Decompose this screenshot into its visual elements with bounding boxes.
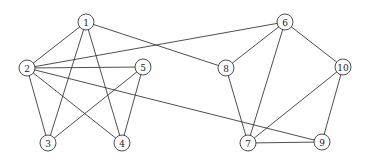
edge-2-5 <box>27 67 143 68</box>
node-5: 5 <box>135 59 151 75</box>
edge-2-6 <box>27 22 285 68</box>
node-9: 9 <box>314 134 330 150</box>
node-label: 3 <box>45 139 51 149</box>
node-label: 9 <box>319 138 325 148</box>
node-3: 3 <box>40 135 56 151</box>
edge-2-9 <box>27 68 322 142</box>
edge-2-3 <box>27 68 48 143</box>
node-label: 6 <box>282 18 288 28</box>
edge-4-5 <box>122 67 143 143</box>
edge-8-7 <box>226 68 248 143</box>
node-1: 1 <box>78 14 94 30</box>
node-label: 10 <box>337 63 349 73</box>
edge-6-8 <box>226 22 285 68</box>
node-8: 8 <box>218 60 234 76</box>
node-label: 8 <box>223 64 229 74</box>
edge-10-9 <box>322 67 343 142</box>
edge-1-2 <box>27 22 86 68</box>
edge-7-9 <box>248 142 322 143</box>
edge-6-7 <box>248 22 285 143</box>
node-label: 4 <box>119 139 125 149</box>
node-label: 1 <box>83 18 89 28</box>
node-2: 2 <box>19 60 35 76</box>
node-10: 10 <box>335 59 351 75</box>
edge-1-3 <box>48 22 86 143</box>
node-7: 7 <box>240 135 256 151</box>
edge-10-7 <box>248 67 343 143</box>
edge-2-4 <box>27 68 122 143</box>
node-6: 6 <box>277 14 293 30</box>
edge-6-10 <box>285 22 343 67</box>
graph-diagram: 12345678910 <box>0 0 365 163</box>
edge-1-4 <box>86 22 122 143</box>
node-label: 7 <box>245 139 251 149</box>
node-label: 2 <box>24 64 30 74</box>
edge-3-5 <box>48 67 143 143</box>
edges-layer <box>27 22 343 143</box>
node-4: 4 <box>114 135 130 151</box>
node-label: 5 <box>140 63 146 73</box>
